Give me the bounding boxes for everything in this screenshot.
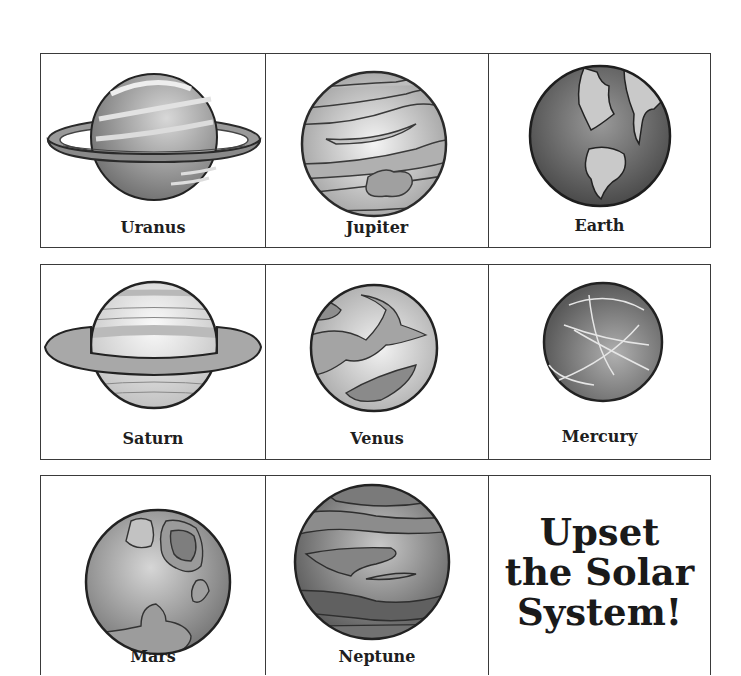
game-title: Upset the Solar System! xyxy=(489,512,710,632)
planet-label: Jupiter xyxy=(266,218,488,237)
title-line-2: the Solar xyxy=(489,552,710,592)
planet-label: Saturn xyxy=(41,429,265,448)
title-line-1: Upset xyxy=(489,512,710,552)
title-card: Upset the Solar System! xyxy=(488,476,710,675)
card-row-3: Mars Neptune Upset the Solar System! xyxy=(40,475,711,675)
planet-label: Mars xyxy=(41,647,265,666)
planet-label: Earth xyxy=(489,216,710,235)
title-line-3: System! xyxy=(489,592,710,632)
card-earth[interactable]: Earth xyxy=(488,54,710,247)
card-row-1: Uranus Jupiter xyxy=(40,53,711,248)
card-jupiter[interactable]: Jupiter xyxy=(265,54,488,247)
planet-label: Venus xyxy=(266,429,488,448)
card-mercury[interactable]: Mercury xyxy=(488,265,710,459)
card-venus[interactable]: Venus xyxy=(265,265,488,459)
mars-planet-icon xyxy=(41,476,265,676)
card-neptune[interactable]: Neptune xyxy=(265,476,488,675)
planet-label: Neptune xyxy=(266,647,488,666)
card-mars[interactable]: Mars xyxy=(41,476,265,675)
planet-label: Mercury xyxy=(489,427,710,446)
neptune-planet-icon xyxy=(266,476,489,676)
card-saturn[interactable]: Saturn xyxy=(41,265,265,459)
planet-label: Uranus xyxy=(41,218,265,237)
card-row-2: Saturn Venus xyxy=(40,264,711,460)
card-uranus[interactable]: Uranus xyxy=(41,54,265,247)
